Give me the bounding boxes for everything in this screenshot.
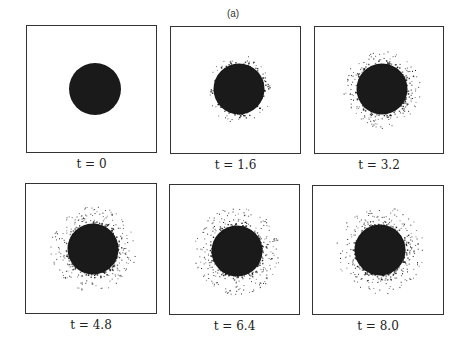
simulation-panel (26, 25, 157, 153)
time-caption: t = 4.8 (25, 318, 157, 332)
particle-cluster (315, 27, 443, 153)
particle-cluster (313, 186, 443, 314)
figure-label: (a) (0, 8, 466, 19)
particle-cluster (27, 26, 156, 152)
time-caption: t = 0 (26, 157, 157, 171)
simulation-panel (170, 26, 301, 154)
simulation-panel (169, 184, 300, 315)
time-caption: t = 8.0 (312, 319, 444, 333)
time-caption: t = 6.4 (169, 319, 300, 333)
simulation-panel (312, 185, 444, 315)
particle-cluster (26, 184, 156, 313)
time-caption: t = 3.2 (314, 158, 444, 172)
time-caption: t = 1.6 (170, 158, 301, 172)
particle-cluster (171, 27, 300, 153)
simulation-panel (25, 183, 157, 314)
particle-cluster (170, 185, 299, 314)
simulation-panel (314, 26, 444, 154)
